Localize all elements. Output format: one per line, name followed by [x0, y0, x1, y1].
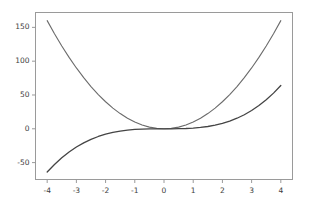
x-tick-label: 0	[162, 187, 167, 195]
x-tick-label: 2	[220, 187, 225, 195]
x-tick-label: -4	[43, 187, 50, 195]
x-tick-label: 3	[249, 187, 254, 195]
plot-canvas	[0, 0, 310, 210]
chart-figure: -50050100150 -4-3-2-101234	[0, 0, 310, 210]
y-tick-label: 0	[0, 125, 30, 133]
x-tick-label: -1	[131, 187, 138, 195]
y-tick-label: 100	[0, 57, 30, 65]
figure-background	[0, 0, 310, 210]
x-tick-label: -3	[73, 187, 80, 195]
x-tick-label: -2	[102, 187, 109, 195]
y-tick-label: 50	[0, 91, 30, 99]
x-tick-label: 1	[191, 187, 196, 195]
y-tick-label: -50	[0, 159, 30, 167]
y-tick-label: 150	[0, 24, 30, 32]
x-tick-label: 4	[278, 187, 283, 195]
